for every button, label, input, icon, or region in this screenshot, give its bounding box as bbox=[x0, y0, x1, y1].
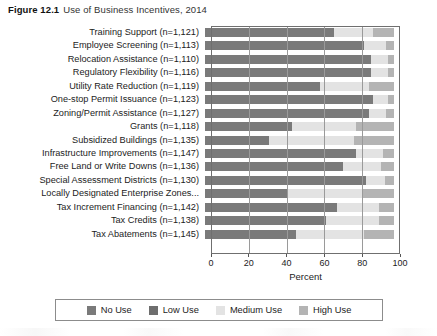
legend-swatch-icon bbox=[87, 306, 96, 315]
bar-segment-no-use bbox=[205, 109, 369, 118]
legend-item[interactable]: Low Use bbox=[149, 305, 199, 315]
stacked-bar bbox=[205, 82, 394, 91]
bar-segment-no-use bbox=[205, 216, 326, 225]
chart-row: Subsidized Buildings (n=1,135) bbox=[0, 134, 437, 147]
bar-segment-high-use bbox=[373, 28, 394, 37]
bar-segment-no-use bbox=[205, 55, 371, 64]
bar-segment-no-use bbox=[205, 189, 288, 198]
stacked-bar bbox=[205, 230, 394, 239]
legend-label: High Use bbox=[313, 305, 351, 315]
row-plot-area bbox=[205, 134, 394, 147]
bar-segment-no-use bbox=[205, 149, 356, 158]
chart-row: Training Support (n=1,121) bbox=[0, 26, 437, 39]
chart-row: Regulatory Flexibility (n=1,116) bbox=[0, 66, 437, 79]
bar-segment-no-use bbox=[205, 122, 292, 131]
chart-row: Tax Abatements (n=1,145) bbox=[0, 228, 437, 241]
chart-row: Employee Screening (n=1,113) bbox=[0, 39, 437, 52]
bar-segment-high-use bbox=[383, 149, 394, 158]
chart-row: Infrastructure Improvements (n=1,147) bbox=[0, 147, 437, 160]
x-axis-tick-mark bbox=[400, 254, 401, 257]
bar-segment-no-use bbox=[205, 176, 366, 185]
category-label: Relocation Assistance (n=1,110) bbox=[0, 53, 205, 66]
stacked-bar bbox=[205, 149, 394, 158]
category-label: Locally Designated Enterprise Zones... bbox=[0, 187, 205, 200]
x-axis-tick-mark bbox=[286, 254, 287, 257]
x-axis-tick-mark bbox=[324, 254, 325, 257]
category-label: One-stop Permit Issuance (n=1,123) bbox=[0, 93, 205, 106]
row-plot-area bbox=[205, 174, 394, 187]
bar-segment-medium-use bbox=[366, 176, 385, 185]
bar-segment-high-use bbox=[362, 189, 394, 198]
bar-segment-medium-use bbox=[343, 162, 381, 171]
bar-segment-high-use bbox=[386, 41, 394, 50]
bar-segment-no-use bbox=[205, 162, 343, 171]
row-plot-area bbox=[205, 107, 394, 120]
category-label: Employee Screening (n=1,113) bbox=[0, 39, 205, 52]
bar-segment-medium-use bbox=[320, 82, 369, 91]
category-label: Tax Abatements (n=1,145) bbox=[0, 228, 205, 241]
legend-item[interactable]: High Use bbox=[299, 305, 351, 315]
figure-title: Use of Business Incentives, 2014 bbox=[63, 4, 207, 15]
x-axis-tick-label: 100 bbox=[392, 258, 407, 268]
stacked-bar bbox=[205, 41, 394, 50]
bar-segment-high-use bbox=[381, 162, 394, 171]
bar-segment-medium-use bbox=[371, 55, 388, 64]
chart-container: Training Support (n=1,121)Employee Scree… bbox=[0, 26, 437, 271]
category-label: Regulatory Flexibility (n=1,116) bbox=[0, 66, 205, 79]
category-label: Training Support (n=1,121) bbox=[0, 26, 205, 39]
stacked-bar bbox=[205, 68, 394, 77]
bar-segment-no-use bbox=[205, 95, 373, 104]
bar-segment-medium-use bbox=[288, 189, 362, 198]
bar-segment-high-use bbox=[379, 203, 394, 212]
bar-segment-medium-use bbox=[369, 109, 386, 118]
stacked-bar bbox=[205, 136, 394, 145]
bar-segment-medium-use bbox=[364, 41, 387, 50]
category-label: Infrastructure Improvements (n=1,147) bbox=[0, 147, 205, 160]
stacked-bar bbox=[205, 55, 394, 64]
legend-label: Medium Use bbox=[230, 305, 282, 315]
chart-row: One-stop Permit Issuance (n=1,123) bbox=[0, 93, 437, 106]
bar-segment-no-use bbox=[205, 68, 371, 77]
category-label: Special Assessment Districts (n=1,130) bbox=[0, 174, 205, 187]
bar-segment-medium-use bbox=[269, 136, 354, 145]
row-plot-area bbox=[205, 214, 394, 227]
row-plot-area bbox=[205, 39, 394, 52]
legend-swatch-icon bbox=[216, 306, 225, 315]
legend-label: No Use bbox=[101, 305, 132, 315]
x-axis-tick-label: 20 bbox=[244, 258, 254, 268]
chart-row: Tax Increment Financing (n=1,142) bbox=[0, 201, 437, 214]
row-plot-area bbox=[205, 93, 394, 106]
bar-segment-high-use bbox=[386, 109, 394, 118]
row-plot-area bbox=[205, 201, 394, 214]
bar-segment-no-use bbox=[205, 230, 296, 239]
row-plot-area bbox=[205, 120, 394, 133]
row-plot-area bbox=[205, 66, 394, 79]
x-axis-tick-label: 80 bbox=[357, 258, 367, 268]
x-axis-tick-mark bbox=[362, 254, 363, 257]
bar-segment-no-use bbox=[205, 136, 269, 145]
stacked-bar bbox=[205, 203, 394, 212]
stacked-bar bbox=[205, 28, 394, 37]
legend-item[interactable]: Medium Use bbox=[216, 305, 282, 315]
bar-segment-no-use bbox=[205, 82, 320, 91]
legend-swatch-icon bbox=[299, 306, 308, 315]
legend-item[interactable]: No Use bbox=[87, 305, 132, 315]
bar-segment-high-use bbox=[385, 176, 394, 185]
chart-row: Utility Rate Reduction (n=1,119) bbox=[0, 80, 437, 93]
stacked-bar bbox=[205, 122, 394, 131]
row-plot-area bbox=[205, 160, 394, 173]
row-plot-area bbox=[205, 80, 394, 93]
chart-legend: No UseLow UseMedium UseHigh Use bbox=[55, 299, 383, 321]
bar-segment-medium-use bbox=[296, 230, 364, 239]
bar-segment-medium-use bbox=[356, 149, 382, 158]
row-plot-area bbox=[205, 53, 394, 66]
bar-segment-medium-use bbox=[292, 122, 356, 131]
scan-artifact bbox=[0, 328, 437, 336]
row-plot-area bbox=[205, 187, 394, 200]
chart-row: Grants (n=1,118) bbox=[0, 120, 437, 133]
bar-segment-medium-use bbox=[373, 95, 388, 104]
bar-segment-no-use bbox=[205, 28, 334, 37]
category-label: Subsidized Buildings (n=1,135) bbox=[0, 134, 205, 147]
row-plot-area bbox=[205, 228, 394, 241]
chart-row: Special Assessment Districts (n=1,130) bbox=[0, 174, 437, 187]
